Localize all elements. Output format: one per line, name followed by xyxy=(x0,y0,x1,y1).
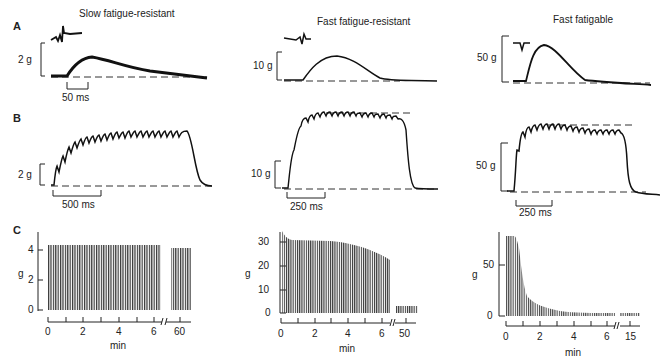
ytick: 50 xyxy=(483,259,494,270)
fatigue-bars-slow xyxy=(38,232,191,325)
xlabel-c-fast-resistant: min xyxy=(339,343,355,354)
scale-y-a-fast-resistant: 10 g xyxy=(253,60,272,71)
fatigue-bars-fast-fatigable xyxy=(499,232,640,329)
tetanus-fast-fatigable xyxy=(501,124,660,206)
xtick: 6 xyxy=(604,331,610,342)
xlabel-c-slow: min xyxy=(110,340,126,351)
xtick: 6 xyxy=(151,326,157,337)
xtick: 2 xyxy=(537,331,543,342)
xtick: 0 xyxy=(45,326,51,337)
xtick: 15 xyxy=(625,331,636,342)
ytick: 2 xyxy=(28,274,34,285)
xlabel-c-fast-fatigable: min xyxy=(565,347,581,358)
scale-y-a-slow: 2 g xyxy=(18,54,32,65)
twitch-fast-fatigable xyxy=(502,36,651,85)
fatigue-bars-fast-resistant xyxy=(280,231,418,326)
scale-y-a-fast-fatigable: 50 g xyxy=(477,52,496,63)
ylabel-c-slow: g xyxy=(18,268,24,279)
xtick: 2 xyxy=(80,326,86,337)
xtick: 50 xyxy=(399,328,410,339)
figure-canvas xyxy=(0,0,660,362)
scale-x-b-slow: 500 ms xyxy=(62,199,95,210)
scale-x-b-fast-fatigable: 250 ms xyxy=(519,207,552,218)
ytick: 20 xyxy=(258,260,269,271)
scale-x-a-slow: 50 ms xyxy=(62,92,89,103)
scale-y-b-fast-resistant: 10 g xyxy=(251,168,270,179)
scale-y-b-slow: 2 g xyxy=(18,169,32,180)
xtick: 2 xyxy=(312,328,318,339)
scale-x-b-fast-resistant: 250 ms xyxy=(290,201,323,212)
scale-y-b-fast-fatigable: 50 g xyxy=(476,160,495,171)
xtick: 4 xyxy=(116,326,122,337)
xtick: 6 xyxy=(379,328,385,339)
ylabel-c-fast-resistant: g xyxy=(245,268,251,279)
ytick: 4 xyxy=(28,244,34,255)
ytick: 0 xyxy=(265,307,271,318)
ylabel-c-fast-fatigable: g xyxy=(472,269,478,280)
twitch-fast-resistant xyxy=(277,34,437,81)
tetanus-fast-resistant xyxy=(275,112,438,198)
ytick: 10 xyxy=(258,284,269,295)
xtick: 0 xyxy=(503,331,509,342)
twitch-slow xyxy=(41,26,207,89)
xtick: 0 xyxy=(278,328,284,339)
xtick: 4 xyxy=(571,331,577,342)
ytick: 0 xyxy=(487,310,493,321)
xtick: 60 xyxy=(174,326,185,337)
ytick: 0 xyxy=(28,304,34,315)
xtick: 4 xyxy=(345,328,351,339)
ytick: 30 xyxy=(258,236,269,247)
tetanus-slow xyxy=(40,131,212,196)
